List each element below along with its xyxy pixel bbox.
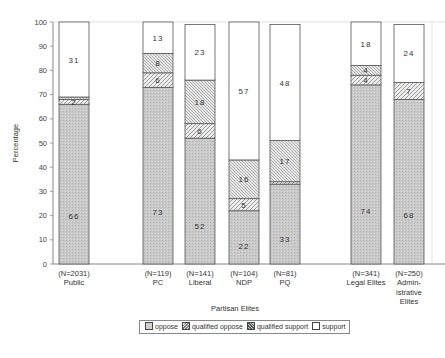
segment-oppose: [143, 87, 173, 264]
value-label: 17: [280, 157, 291, 166]
y-tick-label: 90: [39, 42, 47, 51]
segment-oppose: [59, 104, 89, 264]
category-name: istrative: [396, 288, 422, 297]
bar-liberal: 5261823: [185, 24, 215, 264]
legend-swatch-support: [312, 322, 320, 330]
legend-swatch-qualified-oppose: [182, 322, 190, 330]
legend-label-qualified-oppose: qualified oppose: [192, 323, 243, 330]
legend-label-qualified-support: qualified support: [257, 323, 308, 330]
bar-public: 66231: [59, 22, 89, 264]
category-labels: (N=2031)Public(N=119)PC(N=141)Liberal(N=…: [58, 269, 423, 306]
category-n: (N=2031): [58, 269, 90, 278]
legend-label-support: support: [322, 323, 345, 330]
category-n: (N=81): [273, 269, 297, 278]
segment-oppose: [229, 211, 259, 264]
category-name: Public: [64, 278, 85, 287]
bar-pq: 331748: [270, 24, 300, 264]
category-n: (N=341): [352, 269, 380, 278]
stacked-bar-chart: 0102030405060708090100 66231736813526182…: [0, 0, 445, 358]
y-tick-label: 30: [39, 187, 47, 196]
value-label: 52: [195, 222, 206, 231]
legend-swatch-oppose: [145, 322, 153, 330]
value-label: 66: [69, 212, 80, 221]
category-name: NDP: [236, 278, 252, 287]
value-label: 16: [239, 175, 250, 184]
bar-legal-elites: 744418: [351, 22, 381, 264]
category-name: Liberal: [189, 278, 212, 287]
y-tick-label: 10: [39, 235, 47, 244]
value-label: 33: [280, 235, 291, 244]
bar-admin-istrative-elites: 68724: [394, 24, 424, 264]
bars: 6623173681352618232251657331748744418687…: [59, 22, 424, 264]
x-axis-label: Partisan Elites: [211, 304, 259, 313]
value-label: 31: [69, 56, 80, 65]
y-tick-label: 60: [39, 114, 47, 123]
value-label: 24: [404, 49, 415, 58]
value-label: 48: [280, 79, 291, 88]
category-n: (N=141): [186, 269, 214, 278]
value-label: 57: [239, 87, 250, 96]
value-label: 7: [406, 87, 411, 96]
value-label: 18: [195, 98, 206, 107]
segment-oppose: [270, 184, 300, 264]
value-label: 18: [361, 40, 372, 49]
value-label: 68: [404, 211, 415, 220]
value-label: 13: [153, 34, 164, 43]
y-tick-label: 20: [39, 211, 47, 220]
category-name: Legal Elites: [347, 278, 386, 287]
value-label: 6: [197, 127, 202, 136]
category-name: Elites: [400, 297, 419, 306]
category-n: (N=119): [145, 269, 172, 278]
legend-label-oppose: oppose: [155, 323, 178, 330]
segment-oppose: [185, 138, 215, 264]
segment-oppose: [351, 85, 381, 264]
value-label: 73: [153, 208, 164, 217]
category-name: PC: [153, 278, 164, 287]
category-n: (N=250): [395, 269, 423, 278]
y-tick-label: 70: [39, 90, 47, 99]
category-name: Admin-: [397, 278, 421, 287]
y-tick-label: 40: [39, 163, 47, 172]
category-name: PQ: [280, 278, 291, 287]
category-n: (N=104): [230, 269, 258, 278]
y-tick-label: 0: [43, 260, 47, 269]
segment-oppose: [394, 99, 424, 264]
value-label: 6: [155, 76, 160, 85]
y-tick-label: 80: [39, 66, 47, 75]
value-label: 23: [195, 48, 206, 57]
value-label: 22: [239, 242, 250, 251]
value-label: 4: [363, 66, 368, 75]
bar-pc: 736813: [143, 22, 173, 264]
y-tick-label: 100: [34, 18, 47, 27]
value-label: 5: [241, 201, 246, 210]
value-label: 8: [155, 59, 160, 68]
y-axis-label: Percentage: [11, 124, 20, 162]
legend-swatch-qualified-support: [247, 322, 255, 330]
value-label: 74: [361, 207, 372, 216]
value-label: 4: [363, 76, 368, 85]
bar-ndp: 2251657: [229, 22, 259, 264]
legend: oppose qualified oppose qualified suppor…: [139, 320, 350, 334]
y-tick-label: 50: [39, 139, 47, 148]
